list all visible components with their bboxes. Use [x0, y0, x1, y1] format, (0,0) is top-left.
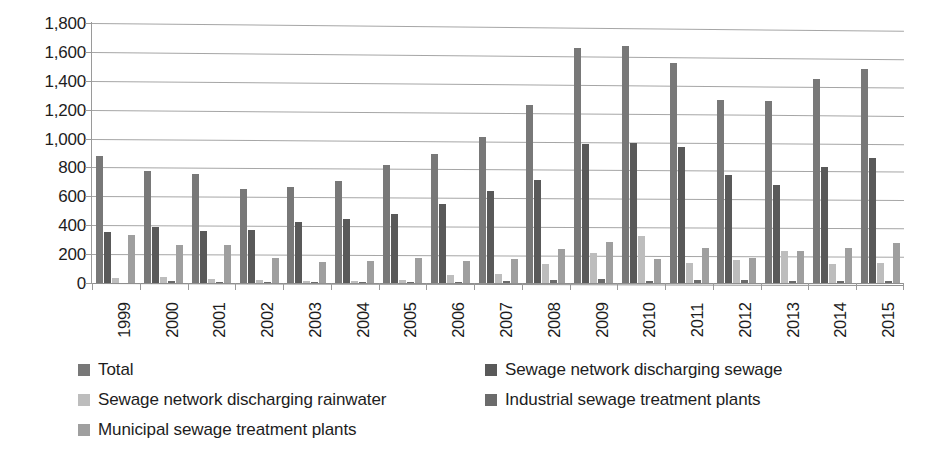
bar[interactable]	[479, 137, 486, 283]
bar-group	[570, 23, 618, 283]
bar[interactable]	[526, 105, 533, 283]
bar[interactable]	[670, 63, 677, 283]
bar[interactable]	[606, 242, 613, 283]
y-axis-tick-label: 1,200	[14, 101, 86, 118]
x-axis-tick-label: 2014	[832, 302, 849, 338]
x-axis-label-slot: 2007	[474, 292, 522, 350]
bar[interactable]	[797, 251, 804, 284]
y-axis-tick-label: 1,400	[14, 72, 86, 89]
bar[interactable]	[383, 165, 390, 283]
bar[interactable]	[144, 171, 151, 283]
bar-group	[331, 23, 379, 283]
bar[interactable]	[733, 260, 740, 283]
bar-group	[713, 23, 761, 283]
bar[interactable]	[431, 154, 438, 283]
x-axis-tick-label: 2006	[450, 302, 467, 338]
bar[interactable]	[590, 253, 597, 283]
x-axis-tick-mark	[617, 283, 665, 290]
legend-item[interactable]: Municipal sewage treatment plants	[78, 420, 356, 439]
bar[interactable]	[104, 232, 111, 283]
y-axis-tick-label: 1,600	[14, 43, 86, 60]
y-axis-tick-mark	[85, 225, 92, 226]
bar[interactable]	[391, 214, 398, 283]
x-axis-tick-labels: 1999200020012002200320042005200620072008…	[92, 292, 904, 350]
y-axis-tick-labels: 1,8001,6001,4001,2001,0008006004002000	[14, 14, 86, 284]
bar[interactable]	[96, 156, 103, 283]
bar[interactable]	[534, 180, 541, 283]
bar[interactable]	[678, 147, 685, 284]
legend-swatch-total	[78, 364, 90, 376]
bar[interactable]	[574, 48, 581, 283]
bar[interactable]	[630, 143, 637, 283]
x-axis-tick-mark	[379, 283, 427, 290]
bar[interactable]	[773, 185, 780, 283]
x-axis-label-slot: 2013	[761, 292, 809, 350]
x-axis-tick-mark	[808, 283, 856, 290]
chart-legend: TotalSewage network discharging sewageSe…	[78, 358, 908, 458]
bar[interactable]	[200, 231, 207, 283]
bar[interactable]	[861, 69, 868, 284]
bar[interactable]	[447, 275, 454, 283]
bar[interactable]	[439, 204, 446, 283]
bar[interactable]	[511, 259, 518, 283]
bar[interactable]	[638, 236, 645, 283]
bar[interactable]	[343, 219, 350, 283]
bar[interactable]	[582, 144, 589, 283]
bar[interactable]	[224, 245, 231, 283]
bar[interactable]	[654, 259, 661, 283]
bar[interactable]	[717, 100, 724, 283]
legend-item[interactable]: Industrial sewage treatment plants	[485, 390, 761, 409]
legend-item-label: Sewage network discharging sewage	[505, 360, 782, 379]
x-axis-tick-label: 2005	[402, 302, 419, 338]
bar[interactable]	[877, 263, 884, 283]
bar[interactable]	[295, 222, 302, 283]
bar[interactable]	[128, 235, 135, 283]
x-axis-label-slot: 2006	[426, 292, 474, 350]
bar[interactable]	[240, 189, 247, 283]
bar[interactable]	[558, 249, 565, 283]
bar[interactable]	[622, 46, 629, 283]
x-axis-tick-label: 2015	[880, 302, 897, 338]
bar[interactable]	[495, 274, 502, 283]
x-axis-label-slot: 2009	[570, 292, 618, 350]
bar[interactable]	[192, 174, 199, 283]
bar[interactable]	[335, 181, 342, 283]
bar[interactable]	[487, 191, 494, 283]
legend-item[interactable]: Total	[78, 360, 133, 379]
bar[interactable]	[869, 158, 876, 283]
bar[interactable]	[749, 258, 756, 283]
bar[interactable]	[821, 167, 828, 283]
x-axis-label-slot: 2003	[283, 292, 331, 350]
bar-group	[617, 23, 665, 283]
x-axis-tick-mark	[761, 283, 809, 290]
bar[interactable]	[176, 245, 183, 283]
bar[interactable]	[781, 251, 788, 284]
legend-item[interactable]: Sewage network discharging sewage	[485, 360, 782, 379]
x-axis-tick-label: 2004	[355, 302, 372, 338]
bar[interactable]	[319, 262, 326, 283]
bar[interactable]	[893, 243, 900, 283]
bar[interactable]	[845, 248, 852, 283]
plot-wrapper: 1,8001,6001,4001,2001,0008006004002000 1…	[0, 0, 925, 300]
bar[interactable]	[415, 258, 422, 283]
legend-item-label: Municipal sewage treatment plants	[98, 420, 356, 439]
bar[interactable]	[463, 261, 470, 283]
plot-area	[92, 23, 904, 283]
bar[interactable]	[248, 230, 255, 283]
bar-group	[665, 23, 713, 283]
bar[interactable]	[367, 261, 374, 283]
bar[interactable]	[725, 175, 732, 283]
bar[interactable]	[152, 227, 159, 283]
x-axis-label-slot: 2004	[331, 292, 379, 350]
bar[interactable]	[829, 264, 836, 284]
bar[interactable]	[272, 258, 279, 283]
y-axis-tick-label: 400	[14, 217, 86, 234]
bar[interactable]	[542, 264, 549, 283]
bar[interactable]	[765, 101, 772, 283]
bar[interactable]	[686, 263, 693, 283]
bar[interactable]	[287, 187, 294, 283]
legend-item[interactable]: Sewage network discharging rainwater	[78, 390, 386, 409]
x-axis-label-slot: 2000	[140, 292, 188, 350]
bar[interactable]	[813, 79, 820, 283]
bar[interactable]	[702, 248, 709, 283]
